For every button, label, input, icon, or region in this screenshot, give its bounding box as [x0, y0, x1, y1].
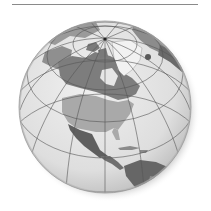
land-iceland: [145, 54, 151, 60]
north-pole-marker: [103, 37, 106, 40]
globe-illustration: [0, 0, 211, 211]
